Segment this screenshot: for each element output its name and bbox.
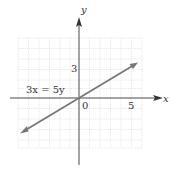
origin-label: 0 bbox=[82, 100, 88, 111]
equation-label: 3x = 5y bbox=[26, 84, 65, 95]
y-axis-label: y bbox=[80, 4, 87, 15]
graph: y x 0 5 3 3x = 5y bbox=[0, 0, 172, 173]
x-tick-5: 5 bbox=[128, 100, 134, 111]
y-tick-3: 3 bbox=[71, 63, 77, 74]
line-arrow-end-icon bbox=[130, 63, 139, 70]
x-axis-label: x bbox=[163, 93, 169, 104]
